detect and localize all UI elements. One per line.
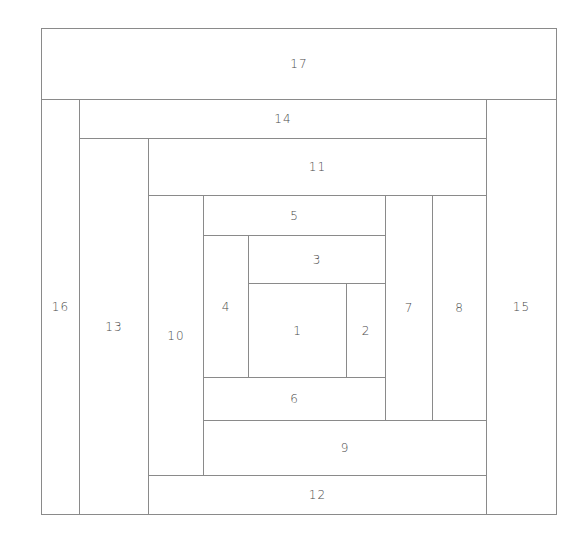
piece-number-label: 16	[52, 300, 69, 314]
piece-number-label: 6	[290, 392, 299, 406]
quilt-piece-2: 2	[346, 283, 386, 378]
quilt-piece-4: 4	[203, 235, 249, 378]
piece-number-label: 14	[274, 112, 291, 126]
quilt-piece-6: 6	[203, 377, 386, 421]
piece-number-label: 5	[290, 209, 299, 223]
quilt-piece-16: 16	[41, 99, 80, 515]
piece-number-label: 13	[105, 320, 122, 334]
piece-number-label: 15	[513, 300, 530, 314]
quilt-piece-1: 1	[248, 283, 347, 378]
piece-number-label: 1	[293, 324, 302, 338]
piece-number-label: 17	[290, 57, 307, 71]
piece-number-label: 7	[405, 301, 414, 315]
quilt-piece-12: 12	[148, 475, 487, 515]
quilt-piece-17: 17	[41, 28, 557, 100]
quilt-piece-7: 7	[385, 195, 433, 421]
piece-number-label: 2	[362, 324, 371, 338]
quilt-piece-8: 8	[432, 195, 487, 421]
quilt-piece-11: 11	[148, 138, 487, 196]
quilt-piece-9: 9	[203, 420, 487, 476]
quilt-piece-15: 15	[486, 99, 557, 515]
quilt-piece-3: 3	[248, 235, 386, 284]
piece-number-label: 10	[167, 329, 184, 343]
piece-number-label: 11	[309, 160, 326, 174]
piece-number-label: 3	[313, 253, 322, 267]
quilt-piece-13: 13	[79, 138, 149, 515]
piece-number-label: 8	[455, 301, 464, 315]
piece-number-label: 4	[222, 300, 231, 314]
quilt-piece-14: 14	[79, 99, 487, 139]
piece-number-label: 9	[341, 441, 350, 455]
quilt-piece-10: 10	[148, 195, 204, 476]
piece-number-label: 12	[309, 488, 326, 502]
quilt-piece-5: 5	[203, 195, 386, 236]
log-cabin-quilt-diagram: 1716141513111210987564321	[0, 0, 586, 544]
